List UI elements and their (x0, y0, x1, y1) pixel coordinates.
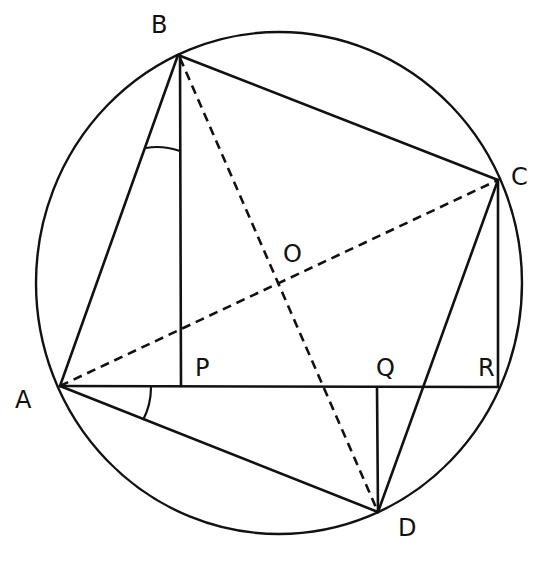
perpendicular-bp (180, 55, 181, 386)
angle-mark-pad (143, 387, 151, 420)
label-a: A (15, 386, 32, 414)
label-q: Q (376, 354, 395, 382)
label-o: O (283, 240, 302, 268)
diagonal-bd (180, 58, 378, 512)
angle-mark-abp (146, 147, 180, 151)
geometry-diagram: A B C D O P Q R (0, 0, 547, 562)
segment-cd (378, 180, 498, 512)
label-d: D (398, 514, 416, 542)
perpendicular-dq (377, 387, 378, 512)
segment-ab (60, 55, 178, 386)
label-c: C (511, 163, 528, 191)
label-p: P (195, 354, 209, 382)
segment-ar (60, 386, 498, 387)
label-b: B (151, 11, 167, 39)
label-r: R (478, 354, 495, 382)
